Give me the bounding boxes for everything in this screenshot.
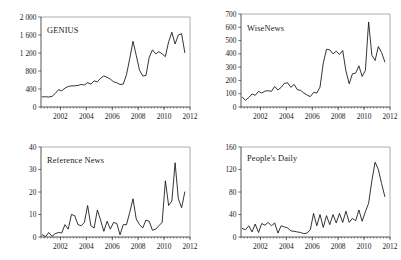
x-tick-label: 2010 xyxy=(357,242,372,251)
panel-plot-3: 04080120160200220042006200820102012Peopl… xyxy=(200,130,400,260)
y-tick-label: 30 xyxy=(29,165,37,174)
panel-plot-1: 0100200300400500600700200220042006200820… xyxy=(200,0,400,130)
y-tick-label: 100 xyxy=(225,89,236,98)
x-tick-label: 2002 xyxy=(253,112,268,121)
data-series-line xyxy=(42,32,185,97)
y-tick-label: 400 xyxy=(225,49,236,58)
y-tick-label: 0 xyxy=(33,103,37,112)
x-tick-label: 2008 xyxy=(131,242,146,251)
x-tick-label: 2006 xyxy=(305,112,320,121)
y-tick-label: 400 xyxy=(25,85,36,94)
chart-panel-reference-news: 010203040200220042006200820102012Referen… xyxy=(0,130,200,260)
x-tick-label: 2004 xyxy=(79,112,94,121)
data-series-line xyxy=(42,163,185,237)
y-tick-label: 300 xyxy=(225,63,236,72)
x-tick-label: 2008 xyxy=(331,242,346,251)
y-tick-label: 40 xyxy=(229,210,237,219)
panel-plot-2: 010203040200220042006200820102012Referen… xyxy=(0,130,200,260)
y-tick-label: 0 xyxy=(233,103,237,112)
x-tick-label: 2012 xyxy=(183,112,198,121)
data-series-line xyxy=(242,162,385,233)
panel-title: WiseNews xyxy=(247,24,284,33)
x-tick-label: 2012 xyxy=(383,112,398,121)
y-tick-label: 1 200 xyxy=(20,49,37,58)
y-tick-label: 80 xyxy=(229,188,237,197)
x-tick-label: 2004 xyxy=(79,242,94,251)
data-series-line xyxy=(242,22,385,100)
x-tick-label: 2012 xyxy=(383,242,398,251)
y-tick-label: 1 600 xyxy=(20,31,37,40)
y-tick-label: 0 xyxy=(233,233,237,242)
x-tick-label: 2012 xyxy=(183,242,198,251)
panel-title: GENIUS xyxy=(47,26,79,35)
y-tick-label: 40 xyxy=(29,143,37,152)
y-tick-label: 2 000 xyxy=(20,13,37,22)
x-tick-label: 2004 xyxy=(279,112,294,121)
x-tick-label: 2010 xyxy=(157,112,172,121)
y-tick-label: 600 xyxy=(225,23,236,32)
y-tick-label: 700 xyxy=(225,10,236,19)
y-tick-label: 0 xyxy=(33,233,37,242)
x-tick-label: 2004 xyxy=(279,242,294,251)
y-tick-label: 160 xyxy=(225,143,236,152)
panel-title: Reference News xyxy=(47,156,104,165)
x-tick-label: 2006 xyxy=(105,112,120,121)
x-tick-label: 2002 xyxy=(53,242,68,251)
y-tick-label: 200 xyxy=(225,76,236,85)
chart-panel-genius: 04008001 2001 6002 000200220042006200820… xyxy=(0,0,200,130)
y-tick-label: 800 xyxy=(25,67,36,76)
panel-plot-0: 04008001 2001 6002 000200220042006200820… xyxy=(0,0,200,130)
y-tick-label: 10 xyxy=(29,210,37,219)
x-tick-label: 2008 xyxy=(331,112,346,121)
panel-title: People's Daily xyxy=(247,154,298,163)
x-tick-label: 2006 xyxy=(105,242,120,251)
x-tick-label: 2006 xyxy=(305,242,320,251)
x-tick-label: 2010 xyxy=(157,242,172,251)
y-tick-label: 500 xyxy=(225,36,236,45)
x-tick-label: 2008 xyxy=(131,112,146,121)
x-tick-label: 2010 xyxy=(357,112,372,121)
x-tick-label: 2002 xyxy=(53,112,68,121)
y-tick-label: 20 xyxy=(29,188,37,197)
chart-panel-wisenews: 0100200300400500600700200220042006200820… xyxy=(200,0,400,130)
chart-panel-peoples-daily: 04080120160200220042006200820102012Peopl… xyxy=(200,130,400,260)
y-tick-label: 120 xyxy=(225,165,236,174)
x-tick-label: 2002 xyxy=(253,242,268,251)
multi-panel-line-chart-figure: 04008001 2001 6002 000200220042006200820… xyxy=(0,0,401,260)
